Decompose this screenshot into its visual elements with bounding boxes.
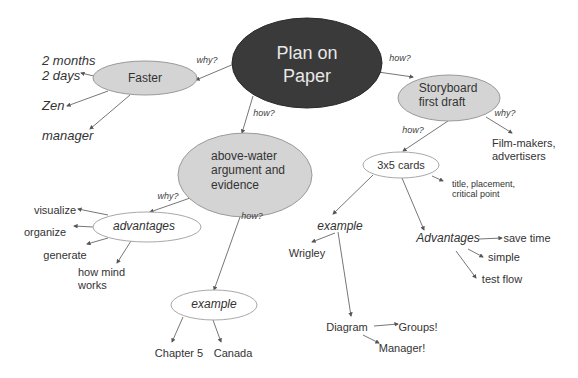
edge-root-faster xyxy=(196,64,234,80)
leaf-title-placement: title, placement, critical point xyxy=(452,179,515,200)
edge-label-storyboard-film: why? xyxy=(494,108,515,118)
root-label-line2: Paper xyxy=(276,64,337,87)
edge-label-abovewater-advantages: why? xyxy=(157,191,178,201)
edge-cards-example xyxy=(333,175,373,214)
root-label: Plan on Paper xyxy=(276,42,337,87)
edge-example-diagram xyxy=(338,232,351,316)
film-line1: Film-makers, xyxy=(492,137,556,150)
edge-storyboard-film xyxy=(486,117,512,133)
leaf-wrigley: Wrigley xyxy=(289,247,325,260)
leaf-manager: manager xyxy=(42,129,93,144)
leaf-simple: simple xyxy=(488,251,520,264)
leaf-zen: Zen xyxy=(42,99,64,114)
leaf-film-makers: Film-makers, advertisers xyxy=(492,137,556,162)
abovewater-line1: above-water xyxy=(211,149,285,163)
leaf-canada: Canada xyxy=(214,347,253,360)
leaf-how-mind-works: how mind works xyxy=(78,266,125,291)
leaf-chapter-5: Chapter 5 xyxy=(155,347,203,360)
faster-label: Faster xyxy=(128,72,162,86)
edge-root-abovewater xyxy=(242,96,253,133)
edge-root-storyboard xyxy=(378,72,413,77)
leaf-organize: organize xyxy=(24,226,66,239)
edge-adv-visualize xyxy=(78,209,108,215)
edge-label-root-storyboard: how? xyxy=(389,53,411,63)
edge-example-chapter5 xyxy=(172,317,183,342)
mind-line1: how mind xyxy=(78,266,125,279)
leaf-2-months: 2 months xyxy=(42,54,95,69)
edge-label-abovewater-example: how? xyxy=(241,211,263,221)
storyboard-label-line1: Storyboard xyxy=(419,82,478,96)
edge-faster-zen xyxy=(67,91,108,106)
edge-cards-detail xyxy=(432,176,443,181)
edge-faster-manager xyxy=(90,95,130,129)
cards-label: 3x5 cards xyxy=(377,159,425,172)
example-label: example xyxy=(191,298,236,312)
storyboard-label-line2: first draft xyxy=(419,96,478,110)
edge-diagram-manager xyxy=(363,335,379,343)
cards-advantages-label: Advantages xyxy=(416,232,479,246)
abovewater-line2: argument and xyxy=(211,164,285,178)
mind-map: Plan on Paper why? how? how? why? how? w… xyxy=(0,0,578,378)
edge-abovewater-example xyxy=(214,217,240,290)
edge-label-storyboard-cards: how? xyxy=(402,125,424,135)
film-line2: advertisers xyxy=(492,150,556,163)
edge-cards-advantages xyxy=(402,178,424,230)
mind-line2: works xyxy=(78,279,125,292)
leaf-visualize: visualize xyxy=(34,204,76,217)
cards-example-label: example xyxy=(317,220,362,234)
root-label-line1: Plan on xyxy=(276,42,337,65)
storyboard-label: Storyboard first draft xyxy=(419,82,478,110)
leaf-diagram: Diagram xyxy=(326,321,368,334)
edge-label-root-abovewater: how? xyxy=(253,108,275,118)
detail-line2: critical point xyxy=(452,189,515,199)
abovewater-label: above-water argument and evidence xyxy=(211,149,285,192)
leaf-groups: Groups! xyxy=(398,321,437,334)
edge-adv-testflow xyxy=(456,251,476,278)
edge-adv-organize xyxy=(74,226,93,227)
leaf-manager-exclaim: Manager! xyxy=(379,342,425,355)
edge-example-canada xyxy=(213,320,221,342)
edge-adv-mind xyxy=(117,241,131,263)
edge-label-root-faster: why? xyxy=(196,55,217,65)
edge-example-wrigley xyxy=(312,233,335,242)
edge-diagram-groups xyxy=(374,324,398,326)
leaf-generate: generate xyxy=(43,249,86,262)
detail-line1: title, placement, xyxy=(452,179,515,189)
leaf-test-flow: test flow xyxy=(482,273,522,286)
edge-adv-simple xyxy=(468,249,483,257)
leaf-save-time: save time xyxy=(503,232,550,245)
advantages-label: advantages xyxy=(113,220,175,234)
edge-adv-generate xyxy=(87,238,108,244)
abovewater-line3: evidence xyxy=(211,178,285,192)
edge-adv-savetime xyxy=(479,238,502,239)
leaf-2-days: 2 days xyxy=(42,69,80,84)
